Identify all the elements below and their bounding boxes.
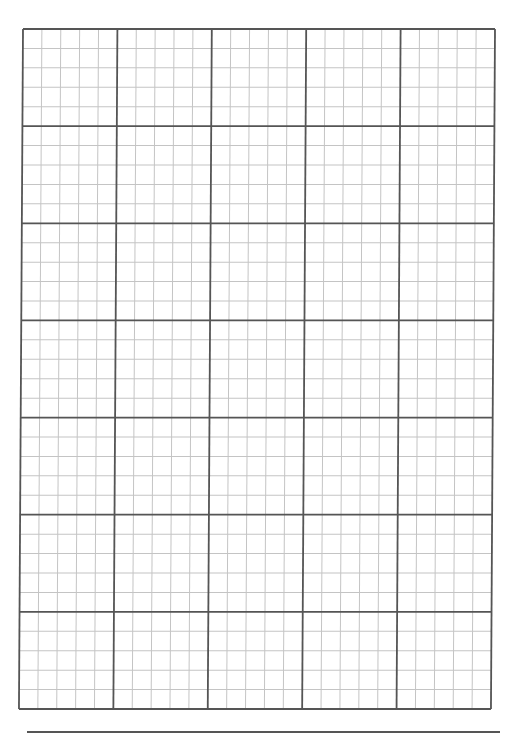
minor-vertical-line xyxy=(170,29,174,709)
major-vertical-line xyxy=(397,29,401,709)
minor-vertical-line xyxy=(94,29,98,709)
minor-vertical-line xyxy=(340,29,344,709)
minor-vertical-line xyxy=(321,29,325,709)
major-vertical-line xyxy=(113,29,117,709)
minor-vertical-line xyxy=(246,29,250,709)
minor-vertical-line xyxy=(132,29,136,709)
minor-vertical-line xyxy=(264,29,268,709)
grid-lines xyxy=(19,29,495,709)
graph-paper-grid xyxy=(19,29,495,709)
minor-vertical-line xyxy=(227,29,231,709)
minor-vertical-line xyxy=(453,29,457,709)
major-vertical-line xyxy=(302,29,306,709)
minor-vertical-line xyxy=(378,29,382,709)
major-vertical-line xyxy=(19,29,23,709)
minor-vertical-line xyxy=(38,29,42,709)
minor-vertical-line xyxy=(359,29,363,709)
footer-rule xyxy=(27,731,500,733)
minor-vertical-line xyxy=(283,29,287,709)
major-vertical-line xyxy=(491,29,495,709)
minor-vertical-line xyxy=(189,29,193,709)
minor-vertical-line xyxy=(472,29,476,709)
minor-vertical-line xyxy=(57,29,61,709)
minor-vertical-line xyxy=(434,29,438,709)
minor-vertical-line xyxy=(76,29,80,709)
minor-vertical-line xyxy=(415,29,419,709)
major-vertical-line xyxy=(208,29,212,709)
minor-vertical-line xyxy=(151,29,155,709)
